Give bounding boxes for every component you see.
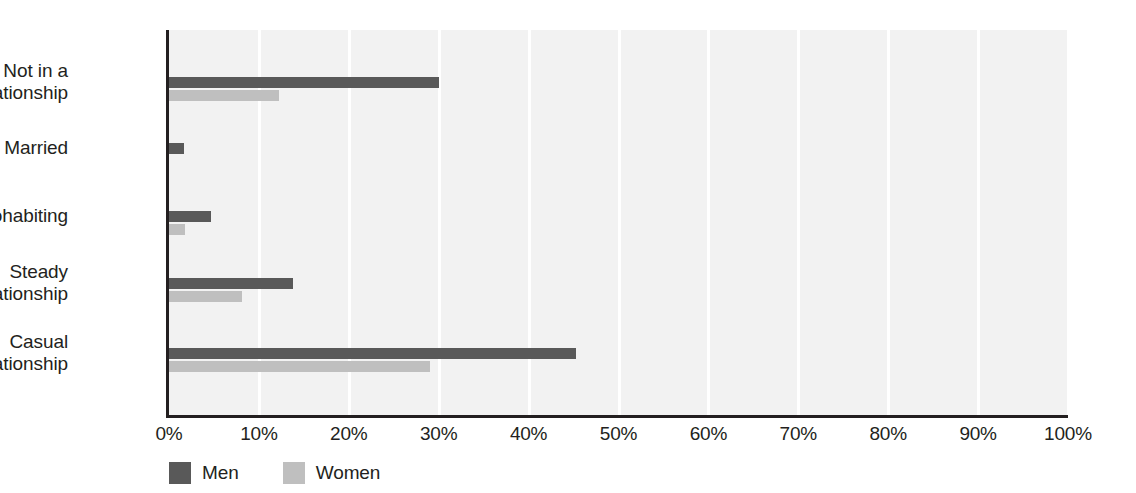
legend-label-men: Men [202,462,239,484]
bar-men[interactable] [169,211,211,222]
gridline [438,0,441,493]
gridline [977,0,980,493]
x-tick-label: 0% [129,423,209,445]
category-label: Casual relationship [0,331,68,375]
gridline [618,0,621,493]
category-label: Married [0,137,68,159]
x-tick-label: 60% [668,423,748,445]
x-tick-label: 10% [219,423,299,445]
legend-item-men[interactable]: Men [169,462,239,484]
legend-swatch-men-icon [169,462,191,484]
x-tick-label: 100% [1028,423,1108,445]
bar-men[interactable] [169,143,184,154]
legend-label-women: Women [316,462,381,484]
legend-item-women[interactable]: Women [283,462,381,484]
x-tick-label: 40% [489,423,569,445]
x-tick-label: 20% [309,423,389,445]
category-label: Not in a relationship [0,60,68,104]
bar-women[interactable] [169,361,430,372]
bar-women[interactable] [169,90,279,101]
category-label: Cohabiting [0,205,68,227]
legend: Men Women [169,462,380,484]
gridline [797,0,800,493]
x-tick-label: 70% [758,423,838,445]
bar-men[interactable] [169,77,439,88]
bar-women[interactable] [169,224,185,235]
gridline [1067,0,1070,493]
x-tick-label: 50% [579,423,659,445]
legend-swatch-women-icon [283,462,305,484]
x-tick-label: 30% [399,423,479,445]
gridline [348,0,351,493]
gridline [528,0,531,493]
gridline [887,0,890,493]
x-tick-label: 80% [848,423,928,445]
bar-chart: Not in a relationshipMarriedCohabitingSt… [0,0,1136,493]
x-axis-line [166,415,1068,418]
category-label: Steady relationship [0,261,68,305]
bar-men[interactable] [169,278,293,289]
bar-men[interactable] [169,348,576,359]
gridline [258,0,261,493]
bar-women[interactable] [169,291,242,302]
x-tick-label: 90% [938,423,1018,445]
gridline [707,0,710,493]
